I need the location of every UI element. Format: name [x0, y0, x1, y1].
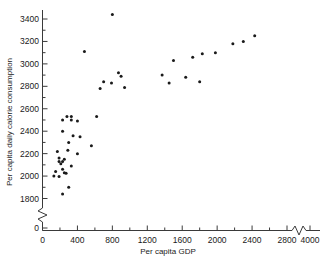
data-point [61, 118, 64, 121]
data-points-group [52, 13, 256, 196]
x-tick-label: 0 [40, 235, 45, 245]
data-point [70, 118, 73, 121]
data-point [191, 56, 194, 59]
x-tick-label: 400 [70, 235, 84, 245]
scatter-chart: 0400800120016002000240028004000018002000… [0, 0, 330, 265]
x-tick-label: 2000 [208, 235, 227, 245]
data-point [56, 150, 59, 153]
y-tick-label: 3000 [20, 59, 39, 69]
y-tick-label: 2000 [20, 171, 39, 181]
data-point [172, 59, 175, 62]
data-point [61, 130, 64, 133]
data-point [76, 120, 79, 123]
x-tick-label: 1200 [138, 235, 157, 245]
data-point [120, 75, 123, 78]
x-axis-title: Per capita GDP [140, 247, 196, 256]
data-point [79, 135, 82, 138]
data-point [70, 164, 73, 167]
data-point [67, 141, 70, 144]
chart-canvas: 0400800120016002000240028004000018002000… [0, 0, 330, 265]
data-point [61, 193, 64, 196]
data-point [59, 162, 62, 165]
data-point [184, 76, 187, 79]
y-tick-label: 2200 [20, 149, 39, 159]
data-point [58, 157, 61, 160]
data-point [58, 175, 61, 178]
data-point-labeled [111, 13, 114, 16]
data-point [168, 81, 171, 84]
data-point [123, 86, 126, 89]
data-point [66, 149, 69, 152]
x-tick-label: 800 [105, 235, 119, 245]
data-point [90, 144, 93, 147]
tick-labels-group: 0400800120016002000240028004000018002000… [20, 14, 320, 245]
data-point [65, 115, 68, 118]
data-point [99, 87, 102, 90]
data-point [102, 80, 105, 83]
y-axis-break-icon [38, 208, 47, 222]
data-point [231, 42, 234, 45]
x-tick-label: 1600 [173, 235, 192, 245]
data-point [72, 134, 75, 137]
data-point [117, 71, 120, 74]
y-tick-label: 0 [34, 223, 39, 233]
data-point [70, 115, 73, 118]
data-point [52, 175, 55, 178]
data-point [242, 40, 245, 43]
x-tick-label: 4000 [301, 235, 320, 245]
y-tick-label: 2400 [20, 126, 39, 136]
y-tick-label: 1800 [20, 194, 39, 204]
data-point [65, 172, 68, 175]
data-point [61, 168, 64, 171]
data-point [253, 34, 256, 37]
data-point [110, 81, 113, 84]
x-tick-label: 2400 [243, 235, 262, 245]
ticks-group [43, 19, 311, 231]
y-tick-label: 2800 [20, 81, 39, 91]
x-tick-label: 2800 [278, 235, 297, 245]
data-point [161, 74, 164, 77]
data-point [76, 152, 79, 155]
data-point [198, 80, 201, 83]
y-tick-label: 2600 [20, 104, 39, 114]
data-point [201, 52, 204, 55]
y-tick-label: 3400 [20, 14, 39, 24]
data-point [83, 50, 86, 53]
axes-group [38, 10, 320, 235]
data-point [54, 170, 57, 173]
y-tick-label: 3200 [20, 36, 39, 46]
y-axis-title: Per capita daily calorie consumption [5, 58, 14, 186]
data-point [95, 115, 98, 118]
data-point [67, 186, 70, 189]
data-point [214, 51, 217, 54]
x-axis-break-icon [292, 226, 306, 235]
